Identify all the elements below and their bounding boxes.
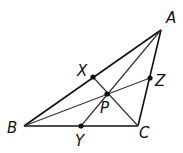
point-p xyxy=(104,91,109,96)
label-z: Z xyxy=(154,72,166,90)
label-b: B xyxy=(7,119,17,137)
label-x: X xyxy=(76,62,88,80)
label-a: A xyxy=(165,9,176,27)
point-x xyxy=(90,74,95,79)
point-y xyxy=(78,123,83,128)
point-z xyxy=(147,75,152,80)
label-y: Y xyxy=(75,132,86,150)
label-p: P xyxy=(100,99,110,117)
triangle-diagram: A B C X Y Z P xyxy=(0,0,183,153)
label-c: C xyxy=(139,124,150,142)
